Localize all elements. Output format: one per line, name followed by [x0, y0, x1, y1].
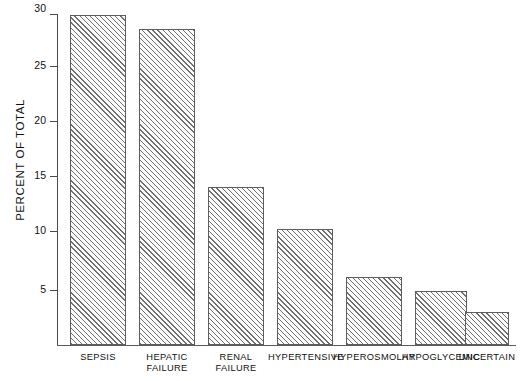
y-axis-spine [57, 14, 58, 346]
x-label-sepsis-line1: SEPSIS [68, 352, 128, 363]
x-label-hepatic-failure-line2: FAILURE [137, 363, 197, 374]
y-tick-label-25: 25 [22, 60, 46, 71]
y-tick-group-30: 30 [0, 14, 46, 15]
y-tick-label-15: 15 [22, 170, 46, 181]
y-tick-label-5: 5 [22, 284, 46, 295]
x-label-sepsis: SEPSIS [68, 352, 128, 363]
y-tick-group-25: 25 [0, 66, 46, 67]
y-tick-label-20: 20 [22, 115, 46, 126]
x-label-hepatic-failure: HEPATIC FAILURE [137, 352, 197, 374]
y-tick-label-10: 10 [22, 225, 46, 236]
x-axis-baseline [57, 345, 516, 346]
x-label-renal-failure-line1: RENAL [206, 352, 266, 363]
x-label-renal-failure-line2: FAILURE [206, 363, 266, 374]
bar-hypertensive [277, 229, 333, 345]
x-label-uncertain: UNCERTAIN [455, 352, 519, 363]
bar-hepatic-failure [139, 29, 195, 345]
y-tick-group-5: 5 [0, 290, 46, 291]
bar-hyperosmolar [346, 277, 402, 345]
x-label-hypertensive-line1: HYPERTENSIVE [268, 352, 342, 363]
y-axis-title: PERCENT OF TOTAL [14, 70, 26, 250]
y-tick-group-15: 15 [0, 176, 46, 177]
bar-renal-failure [208, 187, 264, 345]
y-tick-label-30: 30 [22, 3, 46, 14]
bar-uncertain [465, 312, 509, 345]
y-tick-group-10: 10 [0, 231, 46, 232]
bar-chart-figure: PERCENT OF TOTAL 5 10 15 20 25 30 SEPSIS… [0, 0, 521, 381]
bar-hypoglycemic [415, 291, 467, 345]
x-label-uncertain-line1: UNCERTAIN [455, 352, 519, 363]
y-tick-group-20: 20 [0, 121, 46, 122]
bar-sepsis [70, 15, 126, 345]
x-label-hypertensive: HYPERTENSIVE [268, 352, 342, 363]
x-label-hepatic-failure-line1: HEPATIC [137, 352, 197, 363]
x-label-renal-failure: RENAL FAILURE [206, 352, 266, 374]
